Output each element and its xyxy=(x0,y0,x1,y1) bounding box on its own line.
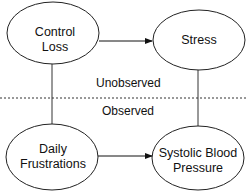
systolic-line1: Systolic Blood xyxy=(159,146,238,161)
daily-frustrations-line1: Daily xyxy=(20,142,86,157)
unobserved-label: Unobserved xyxy=(96,76,161,90)
daily-frustrations-line2: Frustrations xyxy=(20,157,86,172)
observed-label: Observed xyxy=(102,104,154,118)
control-loss-line1: Control xyxy=(35,25,75,40)
stress-label: Stress xyxy=(181,33,216,48)
control-loss-label: Control Loss xyxy=(35,25,75,55)
stress-line1: Stress xyxy=(181,33,216,48)
systolic-label: Systolic Blood Pressure xyxy=(159,146,238,176)
systolic-line2: Pressure xyxy=(159,161,238,176)
control-loss-line2: Loss xyxy=(35,40,75,55)
daily-frustrations-label: Daily Frustrations xyxy=(20,142,86,172)
